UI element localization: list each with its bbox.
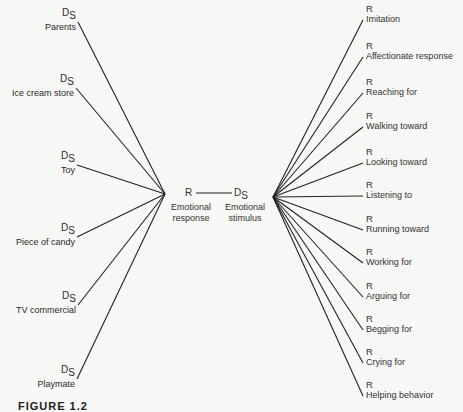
response-symbol: R	[366, 76, 417, 87]
response-node: RAffectionate response	[366, 40, 453, 62]
stimulus-symbol-sub: S	[68, 225, 75, 236]
stimulus-label: Parents	[45, 21, 76, 33]
response-node: RListening to	[366, 179, 412, 201]
response-node: RHelping behavior	[366, 379, 434, 401]
right-connector-line	[273, 197, 363, 297]
center-response-label-line2: response	[172, 213, 209, 223]
stimulus-symbol-sub: S	[69, 293, 76, 304]
response-node: RWalking toward	[366, 110, 427, 132]
right-connector-line	[273, 197, 363, 330]
response-node: RCrying for	[366, 346, 405, 368]
stimulus-label: Playmate	[37, 378, 75, 390]
response-node: RWorking for	[366, 246, 412, 268]
response-label: Helping behavior	[366, 390, 434, 400]
response-label: Walking toward	[366, 121, 427, 131]
response-symbol: R	[366, 379, 434, 390]
response-symbol: R	[366, 346, 405, 357]
response-label: Arguing for	[366, 291, 410, 301]
response-symbol: R	[366, 110, 427, 121]
response-label: Crying for	[366, 357, 405, 367]
right-connector-line	[273, 127, 363, 197]
stimulus-symbol: DS	[61, 151, 75, 164]
response-symbol: R	[366, 3, 400, 14]
left-connector-line	[77, 194, 165, 379]
left-connector-line	[76, 88, 165, 194]
left-connector-lines	[76, 22, 165, 379]
response-label: Affectionate response	[366, 51, 453, 61]
right-connector-lines	[273, 20, 363, 396]
response-label: Begging for	[366, 324, 412, 334]
stimulus-symbol-sub: S	[69, 10, 76, 21]
response-label: Reaching for	[366, 87, 417, 97]
right-connector-line	[273, 197, 363, 363]
response-symbol: R	[366, 40, 453, 51]
stimulus-node: DSToy	[61, 151, 75, 176]
response-node: RReaching for	[366, 76, 417, 98]
stimulus-symbol-sub: S	[68, 367, 75, 378]
center-stimulus-label-line1: Emotional	[225, 202, 265, 212]
stimulus-node: DSPiece of candy	[16, 223, 75, 248]
right-connector-line	[273, 197, 363, 263]
stimulus-node: DSIce cream store	[12, 74, 74, 99]
response-node: RArguing for	[366, 280, 410, 302]
response-symbol: R	[366, 146, 427, 157]
left-connector-line	[78, 194, 165, 305]
stimulus-symbol: DS	[37, 365, 75, 378]
response-label: Listening to	[366, 190, 412, 200]
response-symbol: R	[366, 246, 412, 257]
right-connector-line	[273, 197, 363, 230]
response-node: RBegging for	[366, 313, 412, 335]
center-stimulus-label: Emotional stimulus	[222, 202, 268, 224]
center-stimulus-symbol: DS	[234, 188, 248, 201]
center-stimulus-sub: S	[241, 190, 248, 201]
response-symbol: R	[366, 179, 412, 190]
center-stimulus-label-line2: stimulus	[228, 213, 261, 223]
stimulus-label: TV commercial	[16, 304, 76, 316]
response-label: Running toward	[366, 224, 429, 234]
center-response-label-line1: Emotional	[171, 202, 211, 212]
stimulus-symbol-sub: S	[67, 76, 74, 87]
right-connector-line	[273, 163, 363, 197]
stimulus-symbol: DS	[16, 223, 75, 236]
stimulus-label: Piece of candy	[16, 236, 75, 248]
right-connector-line	[273, 197, 363, 396]
right-connector-line	[273, 57, 363, 197]
response-symbol: R	[366, 280, 410, 291]
stimulus-label: Toy	[61, 164, 75, 176]
left-connector-line	[77, 165, 165, 194]
stimulus-node: DSTV commercial	[16, 291, 76, 316]
stimulus-label: Ice cream store	[12, 87, 74, 99]
response-symbol: R	[366, 213, 429, 224]
center-response-label: Emotional response	[168, 202, 214, 224]
response-node: RRunning toward	[366, 213, 429, 235]
stimulus-symbol: DS	[16, 291, 76, 304]
left-connector-line	[78, 22, 165, 194]
response-label: Working for	[366, 257, 412, 267]
stimulus-symbol: DS	[12, 74, 74, 87]
stimulus-symbol: DS	[45, 8, 76, 21]
stimulus-node: DSParents	[45, 8, 76, 33]
response-node: RImitation	[366, 3, 400, 25]
response-node: RLooking toward	[366, 146, 427, 168]
left-connector-line	[77, 194, 165, 237]
stimulus-node: DSPlaymate	[37, 365, 75, 390]
response-symbol: R	[366, 313, 412, 324]
stimulus-symbol-sub: S	[68, 153, 75, 164]
center-response-symbol: R	[185, 187, 192, 198]
right-connector-line	[273, 196, 363, 197]
response-label: Looking toward	[366, 157, 427, 167]
response-label: Imitation	[366, 14, 400, 24]
figure-caption: FIGURE 1.2	[18, 400, 88, 412]
